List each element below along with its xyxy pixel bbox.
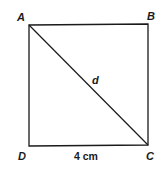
vertex-label-b: B	[147, 10, 155, 22]
diagonal-label-d: d	[92, 74, 99, 86]
vertex-label-a: A	[16, 11, 25, 23]
vertex-label-c: C	[146, 150, 155, 162]
diagonal-ac	[29, 25, 148, 145]
square-diagram: A B D C d 4 cm	[0, 0, 168, 172]
vertex-label-d: D	[18, 150, 26, 162]
side-length-label: 4 cm	[74, 150, 98, 162]
